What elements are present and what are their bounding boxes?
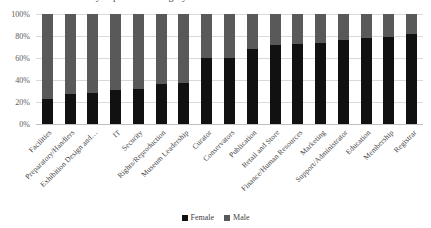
bar-segment-female[interactable]	[87, 93, 98, 124]
bar-segment-female[interactable]	[65, 94, 76, 124]
chart-legend: FemaleMale	[0, 213, 431, 222]
x-axis-category-labels: FacilitiesPreparatory/HandlersExhibition…	[36, 126, 423, 200]
bar-segment-male[interactable]	[42, 14, 53, 99]
stacked-bar[interactable]	[65, 14, 76, 124]
bar-segment-male[interactable]	[315, 14, 326, 43]
bar-segment-female[interactable]	[224, 58, 235, 124]
gridline	[36, 124, 423, 125]
y-axis-tick-label: 20%	[15, 98, 30, 107]
stacked-bar[interactable]	[110, 14, 121, 124]
stacked-bar[interactable]	[315, 14, 326, 124]
bar-segment-female[interactable]	[361, 38, 372, 124]
bar-slot	[127, 14, 150, 124]
stacked-bar[interactable]	[42, 14, 53, 124]
bar-segment-female[interactable]	[315, 43, 326, 124]
bar-segment-female[interactable]	[270, 45, 281, 124]
bar-segment-female[interactable]	[201, 58, 212, 124]
x-axis-tick-label: IT	[111, 128, 123, 140]
stacked-bar[interactable]	[87, 14, 98, 124]
bar-slot	[264, 14, 287, 124]
bar-segment-male[interactable]	[65, 14, 76, 94]
bar-slot	[104, 14, 127, 124]
bar-segment-female[interactable]	[178, 83, 189, 124]
stacked-bar[interactable]	[338, 14, 349, 124]
bar-slot	[332, 14, 355, 124]
bar-segment-female[interactable]	[292, 44, 303, 124]
bar-segment-male[interactable]	[292, 14, 303, 44]
bar-segment-male[interactable]	[87, 14, 98, 93]
bar-segment-male[interactable]	[383, 14, 394, 37]
stacked-bar-chart: Gender distribution by department catego…	[0, 0, 431, 228]
bar-slot	[150, 14, 173, 124]
bar-segment-male[interactable]	[361, 14, 372, 38]
bar-segment-male[interactable]	[133, 14, 144, 89]
y-axis-tick-label: 80%	[15, 32, 30, 41]
legend-item[interactable]: Male	[224, 213, 249, 222]
legend-item[interactable]: Female	[182, 213, 215, 222]
stacked-bar[interactable]	[201, 14, 212, 124]
bar-segment-female[interactable]	[156, 84, 167, 124]
stacked-bar[interactable]	[178, 14, 189, 124]
bar-slot	[195, 14, 218, 124]
stacked-bar[interactable]	[383, 14, 394, 124]
legend-label: Female	[191, 213, 215, 222]
stacked-bar[interactable]	[406, 14, 417, 124]
stacked-bar[interactable]	[292, 14, 303, 124]
bar-slot	[377, 14, 400, 124]
bar-slot	[355, 14, 378, 124]
bar-slot	[400, 14, 423, 124]
stacked-bar[interactable]	[224, 14, 235, 124]
stacked-bar[interactable]	[133, 14, 144, 124]
bar-slot	[286, 14, 309, 124]
y-axis-tick-label: 60%	[15, 54, 30, 63]
stacked-bar[interactable]	[156, 14, 167, 124]
chart-title: Gender distribution by department catego…	[8, 0, 187, 2]
bar-slot	[309, 14, 332, 124]
bar-segment-female[interactable]	[338, 40, 349, 124]
bar-segment-male[interactable]	[338, 14, 349, 40]
bar-segment-male[interactable]	[201, 14, 212, 58]
bar-segment-male[interactable]	[156, 14, 167, 84]
stacked-bar[interactable]	[270, 14, 281, 124]
bar-segment-female[interactable]	[133, 89, 144, 124]
bar-group	[36, 14, 423, 124]
y-axis-tick-label: 40%	[15, 76, 30, 85]
bar-slot	[59, 14, 82, 124]
bar-segment-female[interactable]	[247, 49, 258, 124]
legend-swatch-icon	[224, 215, 230, 221]
bar-slot	[218, 14, 241, 124]
stacked-bar[interactable]	[361, 14, 372, 124]
bar-slot	[241, 14, 264, 124]
plot-area	[36, 14, 423, 124]
legend-swatch-icon	[182, 215, 188, 221]
bar-segment-male[interactable]	[247, 14, 258, 49]
bar-segment-male[interactable]	[178, 14, 189, 83]
y-axis-tick-labels: 0%20%40%60%80%100%	[0, 14, 34, 124]
stacked-bar[interactable]	[247, 14, 258, 124]
bar-segment-female[interactable]	[406, 34, 417, 124]
bar-slot	[82, 14, 105, 124]
bar-segment-male[interactable]	[110, 14, 121, 90]
bar-segment-female[interactable]	[110, 90, 121, 124]
bar-slot	[36, 14, 59, 124]
bar-segment-male[interactable]	[270, 14, 281, 45]
legend-label: Male	[233, 213, 249, 222]
bar-segment-female[interactable]	[42, 99, 53, 124]
y-axis-tick-label: 0%	[19, 120, 30, 129]
y-axis-tick-label: 100%	[11, 10, 30, 19]
bar-segment-male[interactable]	[224, 14, 235, 58]
bar-segment-male[interactable]	[406, 14, 417, 34]
x-axis-tick-label: Registrar	[392, 128, 418, 154]
bar-slot	[173, 14, 196, 124]
bar-segment-female[interactable]	[383, 37, 394, 124]
